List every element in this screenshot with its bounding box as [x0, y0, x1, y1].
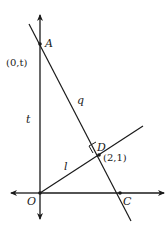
- label-O: O: [27, 195, 36, 208]
- label-q: q: [77, 94, 84, 107]
- label-A: A: [44, 37, 53, 50]
- coordinate-diagram: A (0,t) q t D (2,1) l O C: [0, 0, 168, 232]
- label-t: t: [26, 113, 31, 126]
- line-q: [29, 24, 131, 221]
- label-l: l: [64, 160, 68, 173]
- point-C: [118, 191, 122, 195]
- label-D-coord: (2,1): [103, 152, 127, 163]
- label-C: C: [123, 195, 132, 208]
- point-A: [38, 42, 42, 46]
- line-l: [40, 126, 143, 193]
- label-A-coord: (0,t): [6, 57, 27, 68]
- point-O: [38, 191, 42, 195]
